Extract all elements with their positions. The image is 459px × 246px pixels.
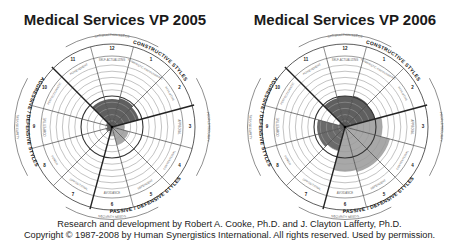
segment-divider-outer [324, 47, 327, 59]
segment-number: 7 [305, 192, 308, 197]
segment-number: 10 [42, 85, 48, 90]
segment-number: 6 [344, 202, 347, 207]
segment-label: COMPETITIVE [43, 117, 47, 136]
segment-label: SELF-ACTUALIZING [332, 58, 358, 62]
need-label-top: SATISFACTION NEEDS [327, 33, 363, 39]
segment-label: AFFILIATIVE [164, 86, 176, 102]
segment-label: AVOIDANCE [104, 191, 120, 195]
segment-label: AFFILIATIVE [397, 86, 409, 102]
segment-label: AVOIDANCE [337, 191, 353, 195]
center-dot [344, 126, 347, 129]
segment-divider-outer [414, 145, 426, 148]
segment-label: DEPENDENT [137, 178, 154, 190]
footer-copyright: Copyright © 1987-2008 by Human Synergist… [0, 230, 459, 241]
center-dot [111, 126, 114, 129]
segment-number: 1 [383, 57, 386, 62]
segment-number: 4 [178, 163, 181, 168]
segment-number: 2 [411, 85, 414, 90]
segment-number: 10 [275, 85, 281, 90]
segment-label: HUMANISTIC-ENCOURAGING [127, 58, 163, 81]
segment-number: 12 [342, 46, 348, 51]
need-label-right: PEOPLE/SECURITY [206, 112, 211, 144]
segment-number: 5 [150, 192, 153, 197]
segment-number: 8 [276, 163, 279, 168]
segment-label: DEPENDENT [370, 178, 387, 190]
segment-number: 8 [43, 163, 46, 168]
segment-number: 11 [71, 57, 76, 62]
segment-number: 4 [411, 163, 414, 168]
segment-divider-outer [395, 68, 403, 76]
segment-number: 6 [111, 202, 114, 207]
segment-number: 5 [383, 192, 386, 197]
footer-credits: Research and development by Robert A. Co… [0, 219, 459, 230]
chart-title-2006: Medical Services VP 2006 [230, 11, 459, 28]
circumplex-chart-2005: SELF-ACTUALIZING12HUMANISTIC-ENCOURAGING… [8, 28, 218, 220]
need-label-left: TASK/SECURITY [248, 114, 253, 140]
segment-number: 9 [33, 124, 36, 129]
segment-number: 12 [109, 46, 115, 51]
segment-label: SELF-ACTUALIZING [99, 58, 125, 62]
segment-divider-outer [286, 177, 294, 185]
segment-number: 3 [422, 124, 425, 129]
circumplex-chart-2006: SELF-ACTUALIZING12HUMANISTIC-ENCOURAGING… [241, 28, 451, 220]
segment-number: 9 [266, 124, 269, 129]
group-divider [90, 127, 112, 209]
segment-number: 2 [178, 85, 181, 90]
segment-divider-outer [53, 177, 61, 185]
segment-label: APPROVAL [410, 120, 414, 135]
segment-divider-outer [181, 145, 193, 148]
segment-number: 1 [150, 57, 153, 62]
need-label-left: TASK/SECURITY [15, 114, 20, 140]
segment-label: APPROVAL [177, 120, 181, 135]
segment-divider-outer [91, 47, 94, 59]
segment-number: 7 [72, 192, 75, 197]
segment-number: 11 [304, 57, 309, 62]
segment-label: HUMANISTIC-ENCOURAGING [360, 58, 396, 81]
chart-title-2005: Medical Services VP 2005 [0, 11, 230, 28]
segment-number: 3 [189, 124, 192, 129]
segment-divider-outer [162, 68, 170, 76]
need-label-top: SATISFACTION NEEDS [94, 33, 130, 39]
need-label-right: PEOPLE/SECURITY [439, 112, 444, 144]
segment-divider-outer [130, 47, 133, 59]
segment-divider-outer [363, 47, 366, 59]
segment-label: COMPETITIVE [276, 117, 280, 136]
